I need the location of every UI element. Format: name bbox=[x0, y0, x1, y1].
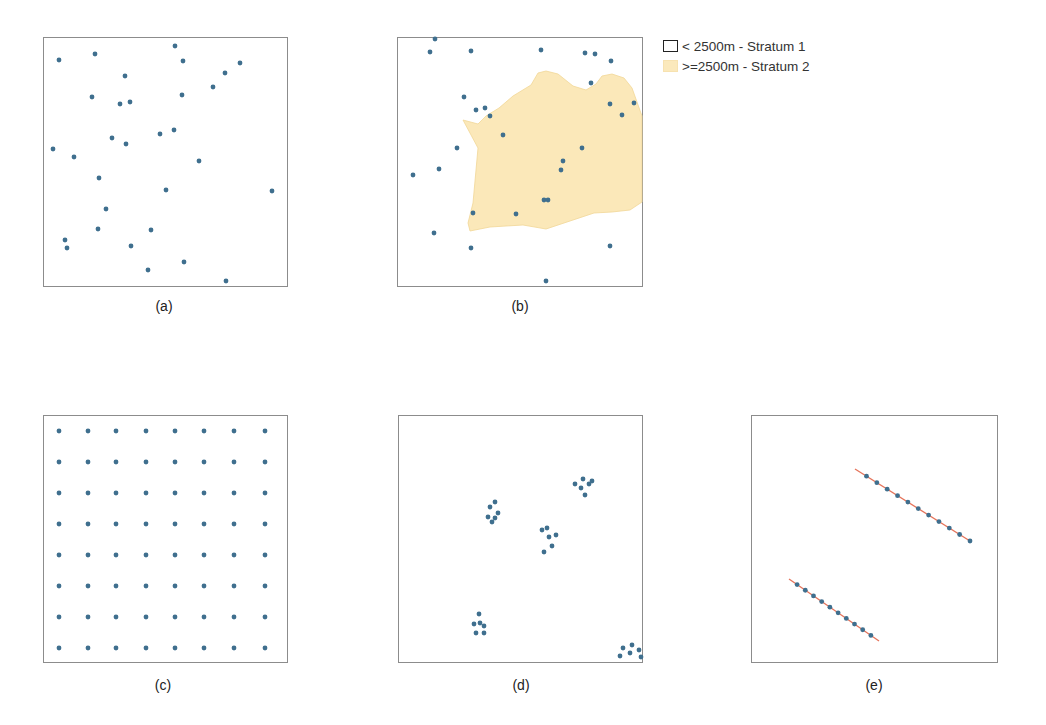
sample-point bbox=[539, 48, 544, 53]
legend-label-stratum-1: < 2500m - Stratum 1 bbox=[682, 39, 805, 54]
sample-point bbox=[637, 648, 642, 653]
sample-point bbox=[947, 526, 952, 531]
sample-point bbox=[618, 654, 623, 659]
sample-point bbox=[621, 646, 626, 651]
sample-point bbox=[86, 646, 91, 651]
sample-point bbox=[496, 511, 501, 516]
sample-point bbox=[202, 615, 207, 620]
sample-point bbox=[202, 553, 207, 558]
sample-point bbox=[583, 493, 588, 498]
sample-point bbox=[114, 429, 119, 434]
sample-point bbox=[828, 605, 833, 610]
sample-point bbox=[211, 85, 216, 90]
sample-point bbox=[474, 631, 479, 636]
sample-point bbox=[482, 624, 487, 629]
sample-point bbox=[836, 610, 841, 615]
sample-point bbox=[547, 535, 552, 540]
sample-point bbox=[65, 246, 70, 251]
sample-point bbox=[544, 279, 549, 284]
sample-point bbox=[573, 482, 578, 487]
sample-point bbox=[472, 622, 477, 627]
sample-point bbox=[589, 81, 594, 86]
sample-point bbox=[110, 136, 115, 141]
sample-point bbox=[149, 228, 154, 233]
sample-point bbox=[144, 429, 149, 434]
sample-point bbox=[885, 487, 890, 492]
caption-a: (a) bbox=[134, 298, 194, 314]
sample-point bbox=[232, 460, 237, 465]
sample-point bbox=[916, 506, 921, 511]
sample-point bbox=[937, 519, 942, 524]
sample-point bbox=[96, 227, 101, 232]
sample-point bbox=[86, 522, 91, 527]
sample-point bbox=[493, 500, 498, 505]
sample-point bbox=[488, 114, 493, 119]
sample-point bbox=[795, 582, 800, 587]
sample-point bbox=[844, 616, 849, 621]
sample-point bbox=[144, 522, 149, 527]
sample-point bbox=[57, 491, 62, 496]
sample-point bbox=[270, 189, 275, 194]
sample-point bbox=[488, 505, 493, 510]
sample-point bbox=[632, 101, 637, 106]
sample-point bbox=[263, 522, 268, 527]
sample-point bbox=[263, 429, 268, 434]
legend: < 2500m - Stratum 1 >=2500m - Stratum 2 bbox=[663, 36, 810, 76]
sample-point bbox=[811, 593, 816, 598]
caption-e: (e) bbox=[844, 677, 904, 693]
sample-point bbox=[263, 615, 268, 620]
sample-point bbox=[144, 615, 149, 620]
sample-point bbox=[114, 646, 119, 651]
sample-point bbox=[428, 50, 433, 55]
sample-point bbox=[114, 615, 119, 620]
sample-point bbox=[90, 95, 95, 100]
sample-point bbox=[223, 71, 228, 76]
sample-point bbox=[263, 460, 268, 465]
sample-point bbox=[202, 429, 207, 434]
sample-point bbox=[608, 244, 613, 249]
stratum-2-region bbox=[463, 71, 642, 231]
sample-point bbox=[86, 429, 91, 434]
sample-point bbox=[471, 211, 476, 216]
sample-point bbox=[581, 477, 586, 482]
sample-point bbox=[114, 553, 119, 558]
sample-point bbox=[852, 622, 857, 627]
sample-point bbox=[202, 522, 207, 527]
sample-point bbox=[580, 146, 585, 151]
sample-point bbox=[593, 52, 598, 57]
sample-point bbox=[559, 168, 564, 173]
sample-point bbox=[232, 553, 237, 558]
sample-point bbox=[93, 52, 98, 57]
caption-c: (c) bbox=[133, 677, 193, 693]
sample-point bbox=[869, 633, 874, 638]
sample-point bbox=[57, 58, 62, 63]
sample-point bbox=[232, 584, 237, 589]
sample-point bbox=[144, 646, 149, 651]
sample-point bbox=[63, 238, 68, 243]
sample-point bbox=[609, 59, 614, 64]
sample-point bbox=[926, 513, 931, 518]
sample-point bbox=[462, 95, 467, 100]
sample-point bbox=[51, 147, 56, 152]
panel-c-plot bbox=[44, 416, 287, 662]
sample-point bbox=[469, 246, 474, 251]
sample-point bbox=[630, 643, 635, 648]
panel-c-systematic bbox=[43, 415, 288, 663]
sample-point bbox=[164, 188, 169, 193]
sample-point bbox=[86, 615, 91, 620]
sample-point bbox=[874, 480, 879, 485]
panel-e-transect bbox=[751, 415, 998, 663]
sample-point bbox=[173, 460, 178, 465]
sample-point bbox=[620, 113, 625, 118]
sample-point bbox=[864, 474, 869, 479]
sample-point bbox=[483, 106, 488, 111]
sample-point bbox=[238, 61, 243, 66]
sample-point bbox=[486, 515, 491, 520]
sample-point bbox=[819, 599, 824, 604]
sample-point bbox=[232, 429, 237, 434]
sample-point bbox=[493, 516, 498, 521]
sample-point bbox=[181, 59, 186, 64]
sample-point bbox=[173, 429, 178, 434]
sample-point bbox=[57, 646, 62, 651]
sample-point bbox=[114, 522, 119, 527]
